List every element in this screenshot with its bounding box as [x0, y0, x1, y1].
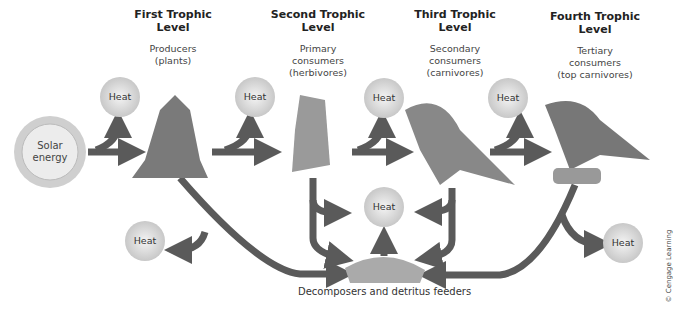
solar-energy-label: Solarenergy [22, 140, 78, 164]
level-2-desc: Primaryconsumers(herbivores) [268, 43, 368, 79]
level-2-title: Second TrophicLevel [268, 8, 368, 34]
caterpillar-illustration [292, 95, 330, 172]
decomposers-label: Decomposers and detritus feeders [298, 286, 471, 297]
credit: © Cengage Learning [663, 228, 677, 308]
plants-illustration [132, 95, 208, 178]
decomposers-illustration [345, 257, 425, 283]
heat-burst-7: Heat [600, 220, 646, 266]
heat-burst-1: Heat [97, 74, 143, 120]
perch [553, 168, 601, 184]
level-1-title: First TrophicLevel [128, 8, 218, 34]
level-1-desc: Producers(plants) [128, 43, 218, 67]
level-4-desc: Tertiaryconsumers(top carnivores) [540, 45, 650, 81]
level-3-title: Third TrophicLevel [405, 8, 505, 34]
hawk-illustration [545, 101, 650, 170]
level-4-title: Fourth TrophicLevel [540, 10, 650, 36]
heat-burst-2: Heat [232, 74, 278, 120]
heat-burst-5: Heat [122, 218, 168, 264]
heat-burst-4: Heat [485, 75, 531, 121]
heat-burst-6: Heat [361, 184, 407, 230]
heat-burst-3: Heat [361, 75, 407, 121]
level-3-desc: Secondaryconsumers(carnivores) [405, 43, 505, 79]
